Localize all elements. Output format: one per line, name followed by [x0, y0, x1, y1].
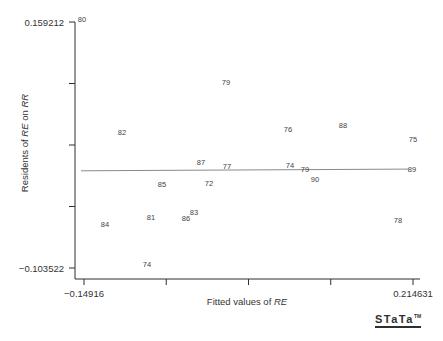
y-axis-title-text: on	[19, 108, 30, 124]
data-point-label: 72	[205, 180, 213, 188]
x-axis-title: Fitted values of RE	[207, 296, 287, 307]
x-tick-label: −0.14916	[64, 288, 104, 299]
y-axis-title-text: Residents of	[19, 137, 30, 192]
data-point-label: 76	[284, 126, 292, 134]
data-point-label: 84	[101, 221, 109, 229]
data-point-label: 77	[223, 163, 231, 171]
y-tick-label: −0.103522	[2, 263, 64, 274]
data-point-label: 86	[182, 215, 190, 223]
data-point-label: 85	[158, 181, 166, 189]
data-point-label: 74	[143, 261, 151, 269]
x-axis-title-text: Fitted values of	[207, 296, 274, 307]
data-point-label: 82	[118, 129, 126, 137]
data-point-label: 78	[394, 217, 402, 225]
y-axis-title-var: RE	[19, 123, 30, 136]
x-tick-label: 0.214631	[393, 288, 433, 299]
y-tick-label: 0.159212	[2, 17, 64, 28]
data-point-label: 75	[409, 136, 417, 144]
stata-logo: STaTaTM	[375, 313, 421, 328]
stata-logo-text: STaTa	[375, 313, 414, 325]
x-axis-title-var: RE	[274, 296, 287, 307]
stata-trademark: TM	[414, 313, 421, 319]
data-point-label: 88	[339, 122, 347, 130]
data-point-label: 80	[78, 16, 86, 24]
data-point-label: 79	[301, 166, 309, 174]
data-point-label: 89	[408, 166, 416, 174]
fit-line	[81, 169, 409, 171]
data-point-label: 79	[222, 79, 230, 87]
data-point-label: 87	[197, 159, 205, 167]
data-point-label: 81	[147, 214, 155, 222]
scatter-plot-figure: 0.159212−0.103522 −0.149160.214631 80798…	[0, 0, 443, 341]
data-point-label: 74	[286, 162, 294, 170]
data-point-label: 83	[190, 209, 198, 217]
data-point-label: 90	[311, 176, 319, 184]
y-axis-title: Residents of RE on RR	[19, 94, 30, 192]
y-axis-title-var: RR	[19, 94, 30, 108]
